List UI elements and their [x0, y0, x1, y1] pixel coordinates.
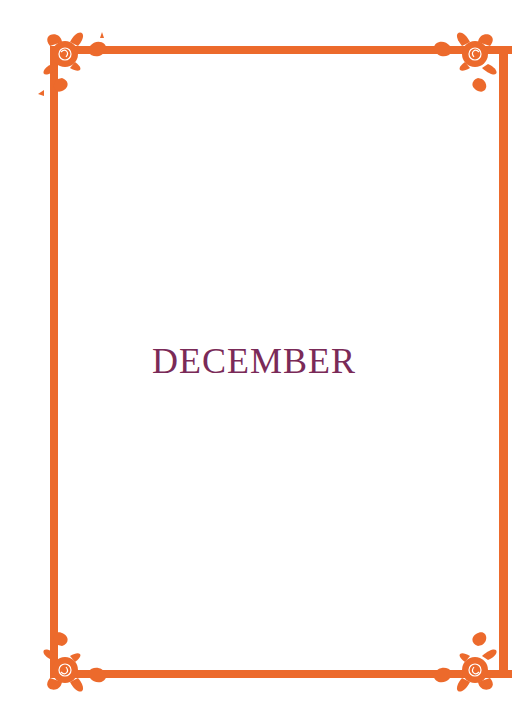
- floral-corner-top-right-icon: [420, 24, 510, 114]
- page-title: DECEMBER: [0, 340, 508, 382]
- floral-corner-bottom-right-icon: [420, 610, 510, 700]
- floral-corner-bottom-left-icon: [30, 610, 120, 700]
- floral-corner-top-left-icon: [30, 24, 120, 114]
